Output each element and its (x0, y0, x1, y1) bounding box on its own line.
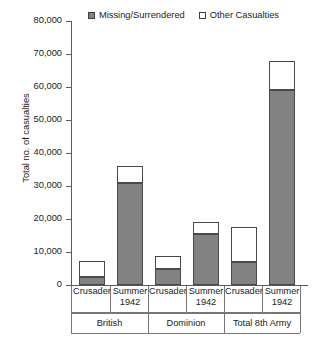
category-label-line2: 1942 (263, 297, 301, 308)
casualties-stacked-bar-chart: Missing/Surrendered Other Casualties Tot… (0, 0, 317, 339)
category-separator (186, 286, 187, 313)
y-tick-label: 40,000 (34, 147, 62, 157)
category-separator (224, 286, 225, 313)
group-label: British (71, 316, 148, 330)
group-label: Dominion (148, 316, 224, 330)
bar-segment-other-casualties (193, 222, 219, 234)
legend-entry-missing-surrendered: Missing/Surrendered (88, 11, 185, 20)
group-separator (224, 313, 225, 333)
bar-segment-other-casualties (117, 166, 143, 183)
group-axis-topline (71, 313, 300, 314)
bar-segment-other-casualties (79, 261, 105, 277)
legend-label-other-casualties: Other Casualties (210, 11, 279, 20)
plot-area: 010,00020,00030,00040,00050,00060,00070,… (71, 21, 308, 285)
y-tick-60000: 60,000 (66, 87, 71, 88)
legend-label-missing-surrendered: Missing/Surrendered (99, 11, 185, 20)
category-separator (148, 286, 149, 313)
bar-segment-missing-surrendered (117, 183, 143, 285)
category-separator (262, 286, 263, 313)
bar-segment-missing-surrendered (269, 90, 295, 285)
legend-swatch-missing-surrendered (88, 12, 95, 19)
category-separator (300, 286, 301, 313)
category-label: Summer1942 (263, 286, 301, 313)
bar-segment-missing-surrendered (79, 277, 105, 285)
bar-segment-other-casualties (231, 227, 257, 262)
category-label-line1: Summer (187, 286, 225, 297)
category-label: Crusader (225, 286, 263, 313)
group-separator (71, 313, 72, 333)
bar-segment-missing-surrendered (193, 234, 219, 285)
y-tick-10000: 10,000 (66, 252, 71, 253)
category-label: Crusader (149, 286, 187, 313)
y-axis-line (71, 21, 72, 285)
y-tick-label: 20,000 (34, 213, 62, 223)
category-label-line2: 1942 (111, 297, 149, 308)
y-tick-40000: 40,000 (66, 153, 71, 154)
y-tick-label: 10,000 (34, 246, 62, 256)
category-label: Crusader (73, 286, 111, 313)
y-tick-label: 50,000 (34, 114, 62, 124)
category-label-line1: Crusader (225, 286, 263, 297)
category-label: Summer1942 (187, 286, 225, 313)
bar-segment-other-casualties (269, 61, 295, 91)
legend-swatch-other-casualties (199, 12, 206, 19)
y-tick-label: 80,000 (34, 15, 62, 25)
category-label-line1: Crusader (149, 286, 187, 297)
legend-entry-other-casualties: Other Casualties (199, 11, 279, 20)
bar-segment-missing-surrendered (155, 269, 181, 286)
y-tick-80000: 80,000 (66, 21, 71, 22)
category-label-line1: Summer (111, 286, 149, 297)
y-axis-title: Total no. of casualties (21, 68, 31, 208)
category-separator (71, 286, 72, 313)
category-axis: CrusaderSummer1942CrusaderSummer1942Crus… (71, 286, 308, 313)
category-label-line1: Crusader (73, 286, 111, 297)
category-label: Summer1942 (111, 286, 149, 313)
chart-legend: Missing/Surrendered Other Casualties (88, 11, 279, 20)
group-separator (148, 313, 149, 333)
y-tick-50000: 50,000 (66, 120, 71, 121)
bar-segment-missing-surrendered (231, 262, 257, 285)
group-separator (300, 313, 301, 333)
y-tick-label: 70,000 (34, 48, 62, 58)
y-tick-20000: 20,000 (66, 219, 71, 220)
y-tick-label: 30,000 (34, 180, 62, 190)
y-tick-30000: 30,000 (66, 186, 71, 187)
category-label-line2: 1942 (187, 297, 225, 308)
category-separator (110, 286, 111, 313)
y-tick-70000: 70,000 (66, 54, 71, 55)
bar-segment-other-casualties (155, 256, 181, 269)
group-axis: BritishDominionTotal 8th Army (71, 313, 308, 333)
group-label: Total 8th Army (224, 316, 300, 330)
category-label-line1: Summer (263, 286, 301, 297)
y-tick-label: 60,000 (34, 81, 62, 91)
group-axis-underline (71, 333, 300, 334)
y-tick-label: 0 (57, 279, 62, 289)
